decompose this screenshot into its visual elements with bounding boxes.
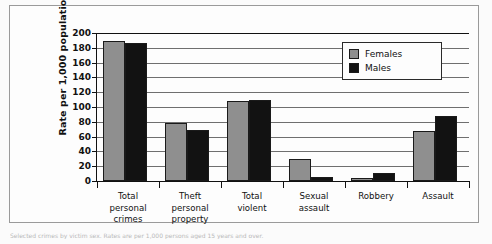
legend-label-males: Males xyxy=(365,63,391,73)
x-tick xyxy=(345,181,346,188)
bar-females xyxy=(165,123,187,181)
x-tick xyxy=(97,181,98,188)
x-axis-category-label: Assault xyxy=(403,191,473,203)
y-tick-label: 120 xyxy=(72,87,91,97)
x-tick xyxy=(407,181,408,188)
bar-group xyxy=(221,33,283,181)
x-axis-category-label: Sexualassault xyxy=(279,191,349,214)
y-tick-label: 200 xyxy=(72,28,91,38)
y-tick-label: 80 xyxy=(78,117,91,127)
bar-females xyxy=(103,41,125,181)
y-tick-label: 160 xyxy=(72,58,91,68)
bar-males xyxy=(125,43,147,181)
bar-males xyxy=(435,116,457,181)
legend-label-females: Females xyxy=(365,49,402,59)
x-axis-category-label: Totalviolent xyxy=(217,191,287,214)
y-tick-label: 180 xyxy=(72,43,91,53)
legend-item-females: Females xyxy=(349,47,435,61)
x-axis-ticks xyxy=(97,181,469,189)
bar-group xyxy=(159,33,221,181)
x-axis-category-label: Totalpersonalcrimes xyxy=(93,191,163,226)
bar-females xyxy=(289,159,311,181)
chart-figure-frame: Rate per 1,000 population 02040608010012… xyxy=(9,5,479,223)
legend-swatch-males-icon xyxy=(349,63,359,73)
y-tick-label: 20 xyxy=(78,161,91,171)
x-axis-category-label: Theftpersonalproperty xyxy=(155,191,225,226)
figure-page: Rate per 1,000 population 02040608010012… xyxy=(0,0,492,244)
y-tick-label: 60 xyxy=(78,132,91,142)
x-tick xyxy=(469,181,470,188)
x-tick xyxy=(221,181,222,188)
y-tick-label: 100 xyxy=(72,102,91,112)
y-tick-label: 40 xyxy=(78,146,91,156)
y-tick-label: 0 xyxy=(85,176,91,186)
chart-legend: Females Males xyxy=(342,42,442,80)
x-axis-category-label: Robbery xyxy=(341,191,411,203)
x-axis-labels: TotalpersonalcrimesTheftpersonalproperty… xyxy=(97,191,469,237)
bar-males xyxy=(249,100,271,181)
x-tick xyxy=(283,181,284,188)
bar-females xyxy=(413,131,435,181)
bar-females xyxy=(227,101,249,181)
legend-swatch-females-icon xyxy=(349,49,359,59)
bar-group xyxy=(283,33,345,181)
x-tick xyxy=(159,181,160,188)
bar-males xyxy=(187,130,209,181)
figure-caption-fragment: Selected crimes by victim sex. Rates are… xyxy=(10,232,480,239)
legend-item-males: Males xyxy=(349,61,435,75)
y-tick-label: 140 xyxy=(72,72,91,82)
bar-group xyxy=(97,33,159,181)
y-axis-title: Rate per 1,000 population xyxy=(57,0,68,136)
bar-males xyxy=(373,173,395,181)
